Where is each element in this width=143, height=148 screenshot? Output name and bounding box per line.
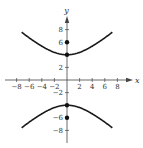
x-tick-label: 4 <box>90 83 95 91</box>
x-axis-label: x <box>135 76 140 85</box>
focus-point <box>65 116 69 120</box>
x-tick-label: −6 <box>24 83 35 91</box>
y-tick-label: −6 <box>53 114 64 122</box>
y-axis-arrow-icon <box>65 16 69 23</box>
hyperbola-graph: xy −8−6−4−22468862−2−6−8 <box>0 0 143 148</box>
y-tick-label: −8 <box>53 127 63 135</box>
y-tick-label: 8 <box>59 26 63 34</box>
vertex-point <box>65 103 69 107</box>
x-tick-label: 6 <box>103 83 108 91</box>
y-tick-label: 6 <box>59 39 64 47</box>
x-tick-label: −4 <box>37 83 48 91</box>
axes: xy <box>5 6 140 143</box>
x-axis-arrow-icon <box>126 78 133 82</box>
y-tick-label: −2 <box>53 89 63 97</box>
focus-point <box>65 40 69 44</box>
y-axis-label: y <box>63 6 69 15</box>
vertex-point <box>65 53 69 57</box>
x-tick-label: 8 <box>115 83 119 91</box>
y-tick-label: 2 <box>59 64 63 72</box>
x-tick-label: 2 <box>77 83 81 91</box>
x-tick-label: −8 <box>11 83 21 91</box>
